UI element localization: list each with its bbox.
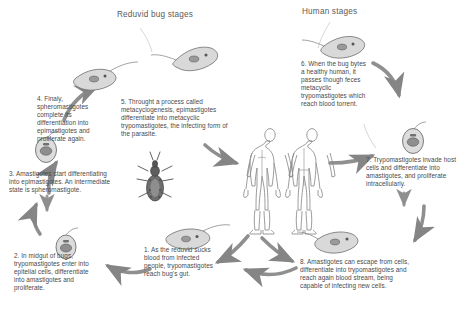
organism-reduviid-bug: [137, 152, 173, 201]
organism-amastigote-step7: [403, 122, 427, 154]
human-body-front: [244, 129, 293, 234]
step-text-1: 1. As the reduvid sucks blood from infec…: [144, 246, 218, 278]
section-title-human-stages: Human stages: [302, 7, 357, 16]
pointer-ticks: [47, 193, 404, 210]
step-text-7: 7. Trypomastigotes invade host cells and…: [366, 156, 466, 188]
step-text-2: 2. In midgut of bugs, trypomastigotes en…: [14, 252, 92, 292]
step-text-6: 6. When the bug bytes a healthy human, i…: [301, 60, 367, 109]
section-title-reduvid-stages: Reduvid bug stages: [117, 10, 193, 19]
step-text-8: 8. Amastigotes can escape from cells, di…: [300, 258, 412, 290]
organism-trypomastigote-step6: [302, 36, 365, 58]
step-text-4: 4. Finaly, spheromastigotes complete its…: [37, 95, 112, 144]
step-text-5: 5. Throught a process called metacycloge…: [121, 98, 237, 138]
organism-epimastigote-step5: [151, 47, 218, 71]
human-body-back: [286, 129, 335, 234]
life-cycle-diagram: Reduvid bug stages Human stages: [0, 0, 471, 316]
organism-trypomastigote-step8: [297, 232, 358, 253]
step-text-3: 3. Amastigotes start differentiating int…: [9, 170, 114, 194]
organism-epimastigote-step4: [74, 62, 138, 90]
